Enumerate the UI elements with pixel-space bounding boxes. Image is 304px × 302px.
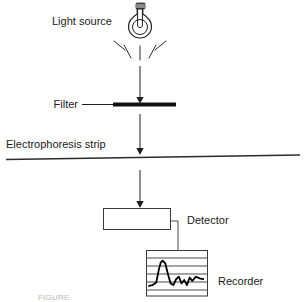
electrophoresis-strip-label: Electrophoresis strip: [6, 138, 106, 150]
bulb-glass: [129, 9, 152, 38]
light-bulb-icon: [129, 3, 152, 38]
detector-to-recorder-connector: [171, 221, 179, 250]
figure-caption-cutoff: FIGURE: [38, 293, 69, 302]
ray-2: [124, 45, 131, 58]
diagram-canvas: Light source Filter Electrophoresis stri…: [0, 0, 304, 302]
ray-5: [155, 41, 166, 50]
recorder-frame: [147, 251, 208, 297]
detector-label: Detector: [187, 214, 229, 226]
ray-4: [149, 45, 156, 58]
electrophoresis-strip-line: [6, 155, 300, 160]
beam-arrow-source-to-filter: [136, 66, 143, 104]
arrowhead: [136, 201, 143, 208]
ray-1: [114, 41, 125, 50]
recorder-box: [147, 251, 208, 297]
recorder-label: Recorder: [218, 275, 264, 287]
light-rays-icon: [114, 41, 166, 60]
light-source-label: Light source: [52, 15, 112, 27]
beam-arrow-strip-to-detector: [136, 170, 143, 208]
bulb-cap: [136, 3, 145, 9]
detector-box: [104, 209, 171, 230]
arrowhead: [136, 148, 143, 155]
filter-label: Filter: [54, 98, 79, 110]
densitometer-diagram: Light source Filter Electrophoresis stri…: [0, 0, 304, 302]
beam-arrow-filter-to-strip: [136, 114, 143, 155]
